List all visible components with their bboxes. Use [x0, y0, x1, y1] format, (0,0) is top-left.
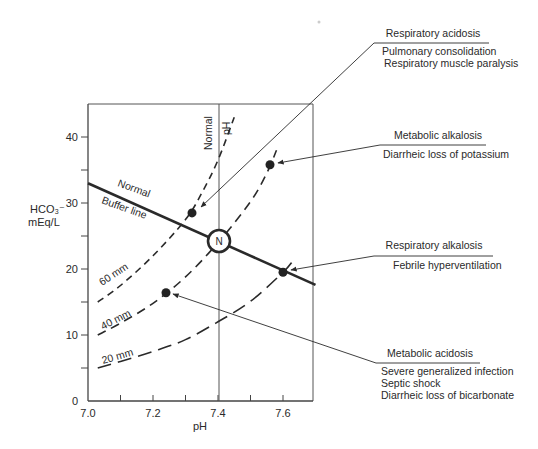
callout-respiratory-alkalosis: Respiratory alkalosis Febrile hyperventi…	[386, 239, 502, 271]
x-tick-label: 7.4	[210, 407, 225, 419]
callout-heading: Metabolic alkalosis	[394, 129, 482, 141]
callout-line: Severe generalized infection	[381, 365, 514, 377]
x-tick-label: 7.2	[145, 407, 160, 419]
leader-lines	[173, 43, 493, 363]
callout-line: Diarrheic loss of bicarbonate	[381, 389, 514, 401]
x-tick-label: 7.0	[80, 407, 95, 419]
normal-point: N	[208, 230, 230, 252]
curve-label-60-group: 60 mm	[97, 260, 131, 288]
callout-heading: Respiratory acidosis	[386, 27, 481, 39]
callout-line: Diarrheic loss of potassium	[383, 148, 509, 160]
callout-line: Febrile hyperventilation	[393, 259, 502, 271]
curve-label-40-group: 40 mm	[98, 306, 132, 331]
point-metabolic-alkalosis	[266, 160, 275, 169]
normal-ph-label-normal: Normal	[202, 116, 214, 150]
x-tick-label: 7.6	[275, 407, 290, 419]
y-tick-label: 10	[66, 329, 78, 341]
y-tick-label: 20	[66, 263, 78, 275]
acid-base-diagram: 7.07.27.47.6010203040 Normal pH 60 mm 40…	[0, 0, 538, 449]
y-axis-title-line2: mEq/L	[28, 216, 60, 228]
callout-line: Septic shock	[381, 377, 441, 389]
point-respiratory-acidosis	[188, 208, 197, 217]
curve-label-60: 60 mm	[97, 260, 131, 288]
point-respiratory-alkalosis	[279, 268, 288, 277]
callout-metabolic-alkalosis: Metabolic alkalosis Diarrheic loss of po…	[383, 129, 509, 160]
callout-metabolic-acidosis: Metabolic acidosis Severe generalized in…	[381, 347, 514, 401]
curve-label-20: 20 mm	[100, 345, 134, 365]
y-tick-label: 0	[72, 395, 78, 407]
normal-point-label: N	[215, 236, 222, 247]
curve-label-20-group: 20 mm	[100, 345, 134, 365]
buffer-label-normal-group: Normal	[116, 177, 152, 200]
chart-svg: 7.07.27.47.6010203040 Normal pH 60 mm 40…	[0, 0, 538, 449]
normal-ph-label: Normal	[202, 116, 214, 150]
point-metabolic-acidosis	[162, 288, 171, 297]
y-tick-label: 30	[66, 197, 78, 209]
buffer-label-line-group: Buffer line	[100, 194, 149, 221]
y-axis-title-line1: HCO₃⁻	[30, 203, 65, 215]
x-axis-title: pH	[193, 420, 207, 432]
callout-line: Pulmonary consolidation	[382, 45, 497, 57]
y-tick-label: 40	[66, 131, 78, 143]
buffer-label-normal: Normal	[116, 177, 152, 200]
buffer-label-buffer-line: Buffer line	[100, 194, 149, 221]
disorder-points	[162, 160, 288, 297]
callout-heading: Respiratory alkalosis	[386, 239, 483, 251]
curve-label-40: 40 mm	[98, 306, 132, 331]
callout-line: Respiratory muscle paralysis	[384, 57, 518, 69]
callout-heading: Metabolic acidosis	[387, 347, 473, 359]
speck	[318, 21, 321, 24]
callout-respiratory-acidosis: Respiratory acidosis Pulmonary consolida…	[382, 27, 518, 69]
